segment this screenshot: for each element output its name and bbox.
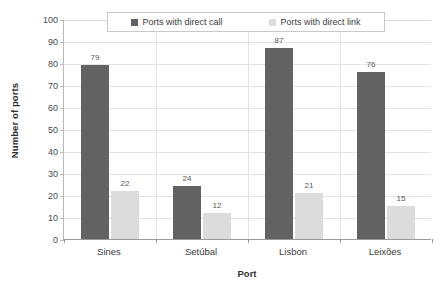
y-axis-tick-mark [60, 64, 64, 65]
y-axis-tick-labels: 1009080706050403020100 [26, 20, 58, 240]
x-axis-tick-label: Leixões [339, 246, 431, 257]
gridline-vertical [248, 20, 249, 239]
x-axis-tick-mark [432, 239, 433, 243]
x-axis-tick-mark [64, 239, 65, 243]
gridline-vertical [156, 20, 157, 239]
bar-leixes-series0 [357, 72, 385, 239]
y-axis-tick-mark [60, 152, 64, 153]
x-axis-tick-label: Setúbal [155, 246, 247, 257]
y-axis-tick-label: 40 [26, 148, 58, 157]
bar-value-label: 87 [259, 37, 299, 45]
y-axis-title: Number of ports [6, 0, 24, 240]
y-axis-title-text: Number of ports [10, 82, 21, 157]
y-axis-tick-label: 100 [26, 16, 58, 25]
bar-lisbon-series0 [265, 48, 293, 239]
bar-value-label: 24 [167, 175, 207, 183]
y-axis-tick-label: 60 [26, 104, 58, 113]
bar-group: 8721 [265, 20, 323, 239]
y-axis-tick-mark [60, 174, 64, 175]
legend-swatch-icon [269, 19, 276, 26]
bar-group: 7922 [81, 20, 139, 239]
x-axis-title: Port [63, 268, 431, 279]
x-axis-tick-mark [340, 239, 341, 243]
y-axis-tick-mark [60, 108, 64, 109]
bar-value-label: 22 [105, 180, 145, 188]
y-axis-tick-label: 0 [26, 236, 58, 245]
y-axis-tick-label: 20 [26, 192, 58, 201]
bar-sines-series1 [111, 191, 139, 239]
bar-value-label: 21 [289, 182, 329, 190]
y-axis-tick-label: 10 [26, 214, 58, 223]
legend-item-0[interactable]: Ports with direct call [131, 17, 222, 27]
bar-sines-series0 [81, 65, 109, 239]
bar-setbal-series0 [173, 186, 201, 239]
bar-value-label: 76 [351, 61, 391, 69]
legend-swatch-icon [131, 19, 138, 26]
chart-legend: Ports with direct callPorts with direct … [107, 12, 385, 32]
legend-label: Ports with direct link [280, 17, 360, 27]
y-axis-tick-mark [60, 218, 64, 219]
bar-setbal-series1 [203, 213, 231, 239]
bar-chart: Number of ports 1009080706050403020100 7… [0, 0, 446, 289]
plot-area: 7922241287217615 [63, 20, 431, 240]
x-axis-tick-mark [156, 239, 157, 243]
y-axis-tick-label: 70 [26, 82, 58, 91]
y-axis-tick-mark [60, 86, 64, 87]
legend-label: Ports with direct call [142, 17, 222, 27]
bar-lisbon-series1 [295, 193, 323, 239]
y-axis-tick-mark [60, 196, 64, 197]
y-axis-tick-label: 50 [26, 126, 58, 135]
gridline-vertical [340, 20, 341, 239]
y-axis-tick-label: 80 [26, 60, 58, 69]
y-axis-tick-mark [60, 42, 64, 43]
x-axis-tick-label: Lisbon [247, 246, 339, 257]
legend-item-1[interactable]: Ports with direct link [269, 17, 360, 27]
bar-leixes-series1 [387, 206, 415, 239]
bar-value-label: 15 [381, 195, 421, 203]
y-axis-tick-label: 30 [26, 170, 58, 179]
y-axis-tick-mark [60, 130, 64, 131]
y-axis-tick-mark [60, 20, 64, 21]
bar-group: 7615 [357, 20, 415, 239]
bar-value-label: 79 [75, 54, 115, 62]
x-axis-tick-labels: SinesSetúbalLisbonLeixões [63, 246, 431, 262]
x-axis-tick-label: Sines [63, 246, 155, 257]
y-axis-tick-label: 90 [26, 38, 58, 47]
x-axis-tick-mark [248, 239, 249, 243]
bar-group: 2412 [173, 20, 231, 239]
bar-value-label: 12 [197, 202, 237, 210]
